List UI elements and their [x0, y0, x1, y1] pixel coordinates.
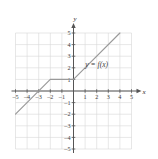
y-tick-label: –1	[63, 99, 70, 106]
function-equation-label: y = f(x)	[84, 60, 108, 69]
axes	[12, 23, 142, 153]
x-tick-label: 4	[118, 93, 121, 100]
x-tick-label: –4	[23, 93, 30, 100]
y-tick-label: –2	[63, 110, 70, 117]
x-axis-arrowhead-icon	[137, 89, 142, 93]
y-axis-label: y	[72, 15, 77, 23]
x-tick-label: 1	[84, 93, 87, 100]
y-tick-label: 5	[67, 29, 70, 36]
y-tick-label: 3	[67, 52, 70, 59]
coordinate-plane: –5–4–3–2–112345 54321–1–2–3–4–5 x y y = …	[0, 0, 158, 159]
x-tick-label: 5	[130, 93, 133, 100]
graph-figure: –5–4–3–2–112345 54321–1–2–3–4–5 x y y = …	[0, 0, 158, 159]
y-axis-arrowhead-icon	[71, 23, 75, 28]
y-tick-label: –5	[63, 145, 70, 152]
x-tick-labels: –5–4–3–2–112345	[11, 93, 133, 100]
x-tick-label: –2	[46, 93, 53, 100]
y-tick-label: –4	[63, 134, 70, 141]
y-tick-label: 2	[67, 64, 70, 71]
y-tick-label: –3	[63, 122, 70, 129]
y-tick-label: 4	[67, 41, 70, 48]
x-tick-label: 2	[95, 93, 98, 100]
x-tick-label: 3	[107, 93, 110, 100]
x-axis-label: x	[142, 88, 147, 96]
x-tick-label: –5	[11, 93, 18, 100]
